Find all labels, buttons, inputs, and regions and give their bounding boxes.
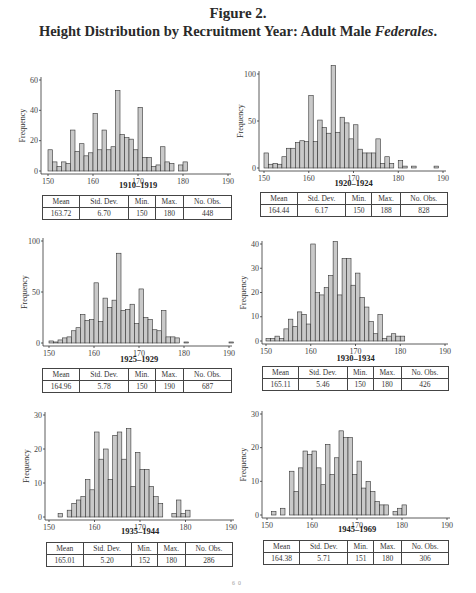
histogram-bar — [362, 153, 366, 168]
stats-value-row: 165.115.46150180426 — [263, 379, 449, 391]
histogram-bar — [304, 142, 308, 168]
period-label: 1945–1969 — [338, 524, 376, 534]
stats-header-cell: Max. — [372, 193, 400, 205]
histogram-bar — [387, 336, 391, 341]
histogram-bar — [327, 133, 331, 168]
y-tick-label: 20 — [251, 443, 259, 452]
stats-value-sd: 6.17 — [297, 205, 346, 217]
histogram-bar — [284, 329, 288, 341]
histogram-bar — [313, 142, 317, 168]
stats-header-cell: Max. — [373, 367, 401, 379]
histogram-bar — [295, 143, 299, 168]
y-tick-label: 40 — [251, 240, 259, 249]
histogram-bar — [321, 485, 326, 515]
stats-value-mean: 164.38 — [264, 553, 300, 565]
histogram-bar — [339, 431, 344, 515]
y-tick-label: 10 — [251, 477, 259, 486]
x-tick-label: 160 — [303, 174, 315, 183]
stats-header-cell: No. Obs. — [401, 367, 448, 379]
y-tick-label: 20 — [251, 288, 259, 297]
x-tick-label: 180 — [396, 521, 408, 530]
histogram-bar — [338, 295, 342, 341]
stats-header-cell: Min. — [348, 541, 374, 553]
stats-header-cell: Mean — [261, 193, 298, 205]
histogram-bar — [382, 339, 386, 341]
histogram-bar — [367, 153, 371, 168]
histogram-bar — [326, 444, 331, 515]
stats-value-min: 151 — [348, 553, 374, 565]
histogram-bar — [286, 148, 290, 168]
stats-value-mean: 164.44 — [261, 205, 298, 217]
histogram-bar — [375, 502, 380, 515]
histogram-bar — [366, 481, 371, 515]
stats-header-cell: Std. Dev. — [300, 541, 348, 553]
stats-value-max: 180 — [374, 553, 402, 565]
histogram-bar — [398, 160, 402, 168]
figure-title: Height Distribution by Recruitment Year:… — [0, 23, 476, 40]
x-tick-label: 190 — [437, 174, 449, 183]
histogram-bar — [293, 326, 297, 341]
y-tick-label: 30 — [251, 264, 259, 273]
stats-header-cell: Std. Dev. — [299, 367, 347, 379]
histogram-bar — [356, 273, 360, 341]
x-tick-label: 160 — [306, 521, 318, 530]
histogram-bar — [300, 141, 304, 168]
histogram-bar — [317, 468, 322, 515]
histogram-bar — [434, 166, 438, 168]
histogram-bar — [330, 475, 335, 515]
figure-title-main: Height Distribution by Recruitment Year:… — [39, 23, 375, 39]
footnote-fragment: 60 — [0, 580, 476, 590]
period-label: 1920–1924 — [334, 178, 373, 188]
histogram-bar — [389, 163, 393, 168]
y-axis-label: Frequency — [236, 104, 245, 138]
figure-title-end: . — [433, 23, 437, 39]
histogram-bar — [360, 297, 364, 341]
histogram-bar — [364, 307, 368, 341]
stats-value-sd: 5.71 — [300, 553, 348, 565]
histogram-bar — [412, 166, 416, 168]
histogram-bar — [315, 293, 319, 342]
y-tick-label: 50 — [248, 117, 256, 126]
histogram-bar — [380, 163, 384, 168]
figure-title-italic: Federales — [375, 23, 434, 39]
histogram-bar — [376, 139, 380, 168]
histogram-bar — [268, 164, 272, 168]
x-tick-label: 150 — [258, 174, 270, 183]
histogram-bar — [393, 512, 398, 515]
stats-header-cell: Mean — [263, 367, 299, 379]
histogram-bar — [290, 471, 295, 515]
histogram-bar — [281, 508, 286, 515]
histogram-bar — [270, 339, 274, 341]
stats-header-cell: Min. — [346, 193, 372, 205]
stats-value-n: 306 — [402, 553, 449, 565]
stats-value-n: 828 — [400, 205, 447, 217]
y-tick-label: 0 — [255, 337, 259, 346]
histogram-bar — [371, 153, 375, 168]
histogram-bar — [378, 314, 382, 341]
histogram-bar — [308, 454, 313, 515]
histogram-bar — [342, 259, 346, 341]
stats-header-cell: Std. Dev. — [297, 193, 346, 205]
histogram-bar — [309, 96, 313, 168]
stats-table: MeanStd. Dev.Min.Max.No. Obs.164.385.711… — [263, 540, 449, 565]
histogram-bar — [320, 295, 324, 341]
histogram-bar — [333, 242, 337, 341]
stats-header-cell: Mean — [264, 541, 300, 553]
histogram-bar — [400, 336, 404, 341]
histogram-bar — [279, 339, 283, 341]
stats-header-cell: Max. — [374, 541, 402, 553]
y-tick-label: 0 — [255, 511, 259, 520]
histogram-bar — [312, 451, 317, 515]
histogram-bar — [353, 475, 358, 515]
histogram-bar — [277, 164, 281, 168]
histogram-bar — [348, 438, 353, 515]
stats-value-max: 180 — [373, 379, 401, 391]
histogram-bar — [391, 334, 395, 341]
histogram-bar — [351, 285, 355, 341]
histogram-bar — [371, 491, 376, 515]
histogram-bar — [402, 505, 407, 515]
x-tick-label: 160 — [305, 347, 317, 356]
y-axis-label: Frequency — [239, 448, 248, 482]
histogram-bar — [303, 451, 308, 515]
stats-value-sd: 5.46 — [299, 379, 347, 391]
